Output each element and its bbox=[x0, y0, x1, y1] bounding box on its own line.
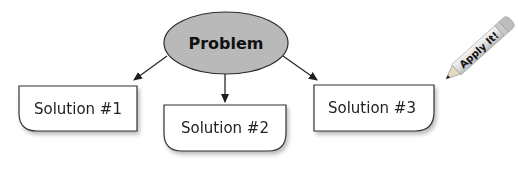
solution-node-1: Solution #1 bbox=[19, 86, 137, 131]
apply-it-label: Apply It! bbox=[457, 30, 500, 71]
solution-label-2: Solution #2 bbox=[181, 119, 269, 137]
solution-label-1: Solution #1 bbox=[34, 100, 122, 118]
solution-node-2: Solution #2 bbox=[164, 105, 286, 151]
solution-node-3: Solution #3 bbox=[314, 85, 434, 131]
apply-it-badge: Apply It! bbox=[441, 15, 516, 84]
solution-label-3: Solution #3 bbox=[328, 99, 416, 117]
problem-node: Problem bbox=[164, 12, 288, 74]
problem-label: Problem bbox=[188, 34, 263, 53]
arrow-to-solution-3 bbox=[283, 56, 317, 80]
diagram-canvas: Problem Solution #1 Solution #2 Solution… bbox=[0, 0, 518, 178]
arrow-to-solution-1 bbox=[134, 56, 167, 80]
